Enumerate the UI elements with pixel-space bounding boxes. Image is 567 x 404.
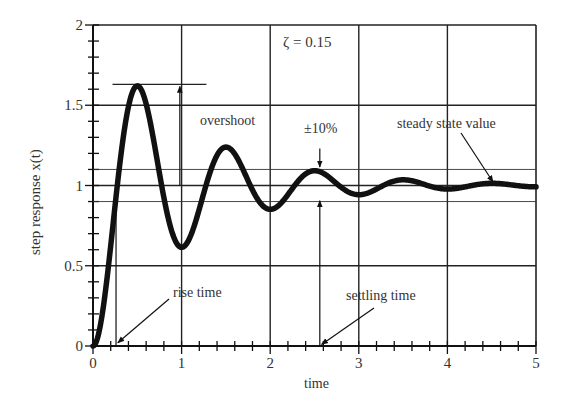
band-label: ±10%: [304, 121, 338, 136]
rise-time-label: rise time: [173, 285, 222, 300]
y-tick-label: 1: [76, 178, 84, 194]
step-response-chart: 01234500.511.52 ζ = 0.15 overshoot ±10% …: [0, 0, 567, 404]
y-axis-label: step response x(t): [27, 149, 44, 255]
y-tick-label: 0: [76, 338, 84, 354]
x-tick-label: 4: [444, 355, 452, 371]
x-tick-label: 1: [178, 355, 186, 371]
y-tick-label: 2: [76, 17, 84, 33]
overshoot-label: overshoot: [200, 113, 255, 128]
zeta-label: ζ = 0.15: [283, 34, 331, 50]
rise-time-pointer: [118, 299, 169, 343]
tick-labels: 01234500.511.52: [64, 17, 540, 371]
axes: [85, 25, 536, 354]
settling-time-pointer: [322, 308, 374, 344]
x-tick-label: 3: [355, 355, 363, 371]
x-tick-label: 2: [266, 355, 274, 371]
settling-time-label: settling time: [346, 288, 416, 303]
y-tick-label: 1.5: [64, 97, 83, 113]
y-tick-label: 0.5: [64, 258, 83, 274]
x-tick-label: 5: [532, 355, 540, 371]
x-tick-label: 0: [89, 355, 97, 371]
steady-state-pointer: [461, 133, 493, 182]
steady-state-label: steady state value: [397, 116, 496, 131]
x-axis-label: time: [304, 376, 329, 391]
